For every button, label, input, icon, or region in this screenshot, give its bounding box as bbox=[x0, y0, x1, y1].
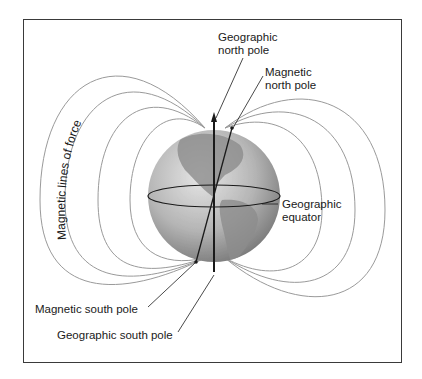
magnetic-south-pole-label: Magnetic south pole bbox=[35, 303, 138, 316]
geographic-south-pole-label: Geographic south pole bbox=[57, 329, 173, 342]
magnetic-north-pole-label: Magnetic north pole bbox=[265, 66, 316, 92]
lines-of-force-label: Magnetic lines of force bbox=[54, 117, 85, 240]
geographic-equator-label: Geographic equator bbox=[282, 198, 341, 224]
geographic-north-pole-label: Geographic north pole bbox=[218, 31, 277, 57]
earth-magnetic-field-diagram: Magnetic lines of force bbox=[0, 0, 422, 379]
